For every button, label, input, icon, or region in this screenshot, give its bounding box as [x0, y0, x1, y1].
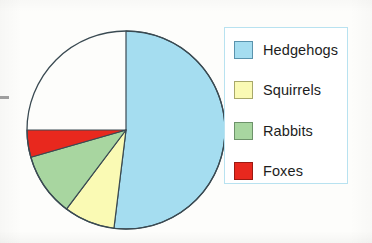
legend-item-foxes[interactable]: Foxes	[234, 161, 303, 181]
pie-chart	[24, 28, 228, 234]
legend-label-squirrels: Squirrels	[263, 83, 321, 98]
chart-page: Hedgehogs Squirrels Rabbits Foxes	[0, 0, 372, 243]
legend-swatch-squirrels	[234, 81, 253, 99]
legend-item-rabbits[interactable]: Rabbits	[234, 121, 313, 141]
legend-swatch-hedgehogs	[234, 41, 253, 59]
page-margin-mark	[0, 96, 9, 99]
legend-label-foxes: Foxes	[263, 164, 303, 179]
legend-swatch-rabbits	[234, 122, 253, 140]
legend-swatch-foxes	[234, 162, 253, 180]
pie-slice-group	[27, 31, 225, 229]
legend-item-hedgehogs[interactable]: Hedgehogs	[234, 40, 338, 60]
legend-item-squirrels[interactable]: Squirrels	[234, 80, 321, 100]
pie-chart-svg	[24, 28, 228, 234]
chart-legend: Hedgehogs Squirrels Rabbits Foxes	[224, 27, 348, 184]
legend-label-hedgehogs: Hedgehogs	[263, 43, 338, 58]
legend-label-rabbits: Rabbits	[263, 124, 313, 139]
pie-slice-hedgehogs[interactable]	[114, 31, 225, 229]
